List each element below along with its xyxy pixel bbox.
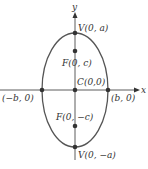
vertex-bottom-point — [73, 145, 78, 150]
covertex-left-point — [40, 88, 45, 93]
covertex-left-label: (−b, 0) — [2, 93, 34, 103]
center-point — [73, 88, 78, 93]
y-axis-label: y — [72, 2, 77, 12]
covertex-right-point — [106, 88, 111, 93]
x-axis-label: x — [141, 85, 146, 95]
focus-top-point — [73, 49, 78, 54]
vertex-top-label: V(0, a) — [78, 23, 108, 33]
x-axis-arrow-icon — [134, 88, 140, 93]
vertex-top-point — [73, 31, 78, 36]
covertex-right-label: (b, 0) — [111, 93, 135, 103]
center-label: C(0,0) — [77, 77, 105, 87]
focus-top-label: F(0, c) — [62, 58, 92, 68]
focus-bottom-point — [73, 124, 78, 129]
y-axis-arrow-icon — [73, 12, 78, 18]
focus-bottom-label: F(0, −c) — [56, 112, 93, 122]
vertex-bottom-label: V(0, −a) — [78, 150, 116, 160]
ellipse-diagram — [0, 0, 148, 169]
